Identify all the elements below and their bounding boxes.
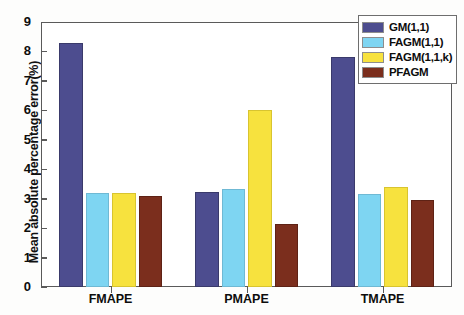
- bar[interactable]: [86, 193, 110, 287]
- legend-label-fagm11: FAGM(1,1): [389, 36, 443, 48]
- legend-swatch-fagm11: [362, 37, 384, 48]
- bar[interactable]: [222, 189, 246, 287]
- bar[interactable]: [275, 224, 299, 287]
- bar-chart: Mean absolute percentage error(%) 012345…: [0, 0, 464, 315]
- bar-group: [59, 24, 162, 287]
- legend-label-fagm11k: FAGM(1,1,k): [389, 51, 452, 63]
- bar[interactable]: [248, 110, 272, 287]
- y-axis-tick-label: 6: [24, 101, 31, 119]
- y-axis-tick-mark: [41, 287, 47, 289]
- bar[interactable]: [139, 196, 163, 287]
- x-axis-label-pmape: PMAPE: [187, 292, 307, 306]
- bar[interactable]: [384, 187, 408, 286]
- x-axis-label-fmape: FMAPE: [51, 292, 171, 306]
- legend-swatch-pfagm: [362, 67, 384, 78]
- y-axis-tick-label: 7: [24, 72, 31, 90]
- legend-item[interactable]: FAGM(1,1): [362, 35, 452, 49]
- bar[interactable]: [411, 200, 435, 286]
- bar[interactable]: [59, 43, 83, 287]
- legend-item[interactable]: PFAGM: [362, 65, 452, 79]
- y-axis-tick-label: 4: [24, 160, 31, 178]
- y-axis-tick-label: 0: [24, 278, 31, 296]
- y-axis-tick-label: 2: [24, 219, 31, 237]
- legend-label-gm11: GM(1,1): [389, 21, 429, 33]
- legend-label-pfagm: PFAGM: [389, 66, 428, 78]
- legend: GM(1,1) FAGM(1,1) FAGM(1,1,k) PFAGM: [358, 15, 457, 84]
- legend-item[interactable]: GM(1,1): [362, 20, 452, 34]
- legend-swatch-gm11: [362, 22, 384, 33]
- y-axis-tick-label: 8: [24, 42, 31, 60]
- bar[interactable]: [195, 192, 219, 287]
- y-axis-tick-label: 9: [24, 13, 31, 31]
- bar-group: [195, 24, 298, 287]
- bar[interactable]: [358, 194, 382, 286]
- legend-swatch-fagm11k: [362, 52, 384, 63]
- bar[interactable]: [331, 57, 355, 286]
- y-axis-tick-label: 1: [24, 249, 31, 267]
- bar[interactable]: [112, 193, 136, 287]
- x-axis-label-tmape: TMAPE: [323, 292, 443, 306]
- y-axis-tick-label: 5: [24, 131, 31, 149]
- legend-item[interactable]: FAGM(1,1,k): [362, 50, 452, 64]
- y-axis-tick-label: 3: [24, 190, 31, 208]
